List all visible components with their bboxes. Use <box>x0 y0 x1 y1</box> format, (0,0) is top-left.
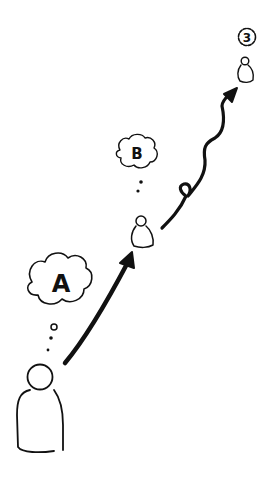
stage-label-3: 3 <box>243 31 251 45</box>
thought-dots-b <box>136 180 142 192</box>
thought-dots-a <box>47 324 57 351</box>
person-large-icon <box>17 365 63 453</box>
person-small-icon <box>238 57 253 82</box>
stage-label-b: B <box>131 145 142 163</box>
arrow-a-to-b <box>65 252 134 363</box>
wavy-arrow-b-to-3 <box>162 88 237 228</box>
stage-label-a: A <box>52 270 71 298</box>
journey-diagram: A B 3 <box>0 0 280 479</box>
person-medium-icon <box>132 216 154 247</box>
